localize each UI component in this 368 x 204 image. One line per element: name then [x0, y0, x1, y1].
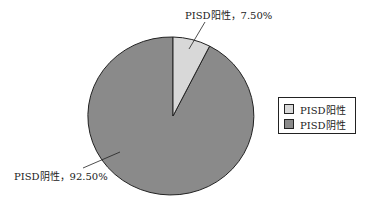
legend-swatch-negative — [284, 119, 294, 129]
legend-label-negative: PISD阴性 — [300, 117, 346, 132]
pie-slice-negative — [88, 37, 254, 195]
data-label-negative: PISD阴性，92.50% — [14, 170, 108, 182]
legend: PISD阳性 PISD阴性 — [278, 97, 356, 134]
legend-item-positive: PISD阳性 — [284, 103, 346, 115]
data-label-positive: PISD阳性，7.50% — [185, 9, 272, 21]
legend-swatch-positive — [284, 104, 294, 114]
legend-label-positive: PISD阳性 — [300, 102, 346, 117]
legend-item-negative: PISD阴性 — [284, 118, 346, 130]
